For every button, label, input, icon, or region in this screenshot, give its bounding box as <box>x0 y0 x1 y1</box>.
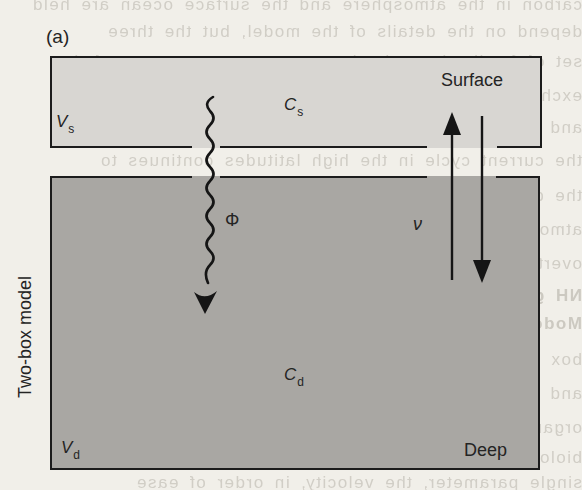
deep-concentration-label: Cd <box>284 366 303 386</box>
surface-concentration-symbol: C <box>284 95 296 114</box>
deep-region-label: Deep <box>464 441 507 459</box>
deep-volume-subscript: d <box>73 448 80 462</box>
surface-region-label: Surface <box>441 71 503 89</box>
scanned-figure-page: carbon in the atmosphere and the surface… <box>0 0 582 490</box>
figure-side-title: Two-box model <box>15 187 37 487</box>
surface-volume-symbol: V <box>56 112 67 131</box>
surface-concentration-subscript: s <box>297 105 303 119</box>
surface-concentration-label: Cs <box>284 96 302 116</box>
panel-label: (a) <box>46 27 69 46</box>
deep-volume-symbol: V <box>61 438 72 457</box>
surface-volume-subscript: s <box>68 122 74 136</box>
particle-flux-symbol: Φ <box>225 211 239 229</box>
deep-volume-label: Vd <box>61 439 79 459</box>
surface-volume-label: Vs <box>56 113 73 133</box>
deep-concentration-subscript: d <box>297 375 304 389</box>
deep-concentration-symbol: C <box>284 365 296 384</box>
exchange-rate-symbol: ν <box>413 215 422 233</box>
label-layer: (a) Surface Cs Vs Φ ν Cd Vd Deep Two-box… <box>0 0 582 490</box>
